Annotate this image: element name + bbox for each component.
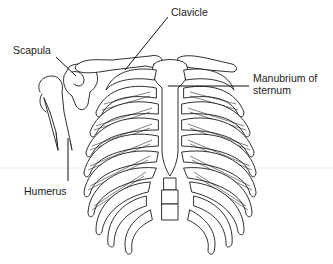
left-ribs — [84, 69, 158, 254]
label-manubrium-line1: Manubrium of — [253, 72, 317, 84]
label-humerus: Humerus — [24, 185, 67, 197]
label-manubrium-of-sternum: Manubrium of sternum — [253, 72, 317, 96]
rib-cage-diagram — [0, 0, 333, 264]
label-manubrium-line2: sternum — [253, 84, 317, 96]
label-scapula: Scapula — [13, 44, 51, 56]
label-clavicle: Clavicle — [171, 6, 208, 18]
right-ribs — [182, 69, 256, 254]
